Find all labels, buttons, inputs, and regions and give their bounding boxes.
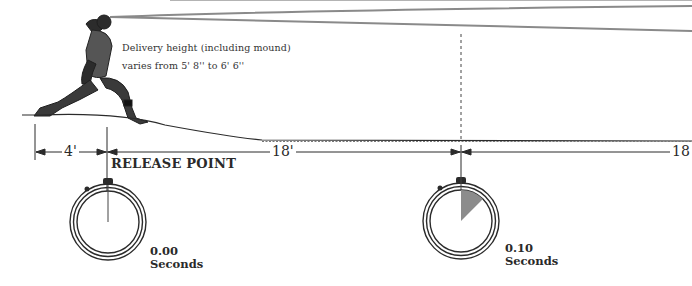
time-unit: Seconds xyxy=(505,255,558,268)
distance-label-18ft: 18' xyxy=(270,143,296,159)
distance-label-18-cut: 18 xyxy=(670,143,692,159)
release-point-label: RELEASE POINT xyxy=(111,156,236,171)
ball-trajectory xyxy=(110,0,692,31)
mound-profile xyxy=(22,114,692,141)
time-unit: Seconds xyxy=(150,258,203,271)
stopwatch-reading-0: 0.00 Seconds xyxy=(150,245,203,271)
caption-line-2: varies from 5' 8'' to 6' 6'' xyxy=(122,57,291,75)
distance-label-4ft: 4' xyxy=(62,143,79,159)
stopwatch-reading-1: 0.10 Seconds xyxy=(505,242,558,268)
stopwatch-icon xyxy=(70,178,146,260)
caption-line-1: Delivery height (including mound) xyxy=(122,39,291,57)
stopwatch-icon xyxy=(423,177,499,259)
delivery-height-caption: Delivery height (including mound) varies… xyxy=(122,39,291,75)
pitch-timeline-diagram xyxy=(0,0,692,286)
